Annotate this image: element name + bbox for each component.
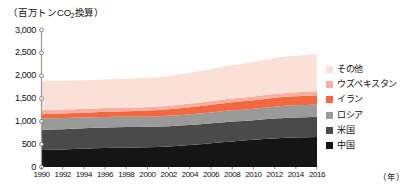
y-tick-label: 2,500 [2, 47, 36, 57]
legend-swatch-icon [326, 112, 333, 119]
y-tick-mark [40, 97, 44, 101]
legend-swatch-icon [326, 81, 333, 88]
legend-item-label: その他 [337, 65, 363, 74]
legend-item-label: ウズベキスタン [337, 80, 397, 89]
y-tick-label: 2,000 [2, 70, 36, 80]
y-tick-mark [40, 51, 44, 55]
legend-item-イラン[interactable]: イラン [326, 92, 412, 107]
y-tick-label: 500 [2, 139, 36, 149]
y-tick-mark [40, 74, 44, 78]
legend-item-label: 中国 [337, 141, 354, 150]
legend-item-label: イラン [337, 95, 363, 104]
legend-item-label: 米国 [337, 126, 354, 135]
y-tick-label: 1,000 [2, 116, 36, 126]
legend-item-ロシア[interactable]: ロシア [326, 108, 412, 123]
y-tick-mark [40, 142, 44, 146]
legend-item-その他[interactable]: その他 [326, 62, 412, 77]
x-axis-unit-label: （年） [378, 170, 405, 182]
legend-swatch-icon [326, 96, 333, 103]
y-tick-label: 3,000 [2, 25, 36, 35]
legend-swatch-icon [326, 66, 333, 73]
legend-item-中国[interactable]: 中国 [326, 138, 412, 153]
legend-swatch-icon [326, 127, 333, 134]
y-tick-label: 1,500 [2, 93, 36, 103]
chart-figure: （百万トンCO2換算） 3,0002,5002,0001,5001,000500… [0, 0, 414, 189]
legend-item-米国[interactable]: 米国 [326, 123, 412, 138]
y-tick-mark [40, 119, 44, 123]
y-tick-mark [40, 28, 44, 32]
area-layers [42, 54, 318, 167]
legend-swatch-icon [326, 142, 333, 149]
chart-legend: その他ウズベキスタンイランロシア米国中国 [326, 62, 412, 153]
legend-item-ウズベキスタン[interactable]: ウズベキスタン [326, 77, 412, 92]
x-tick-label: 2016 [302, 170, 332, 179]
legend-item-label: ロシア [337, 111, 363, 120]
